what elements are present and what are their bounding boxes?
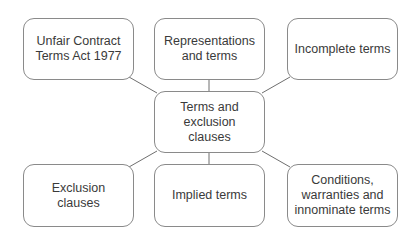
- node-exclusion-clauses: Exclusion clauses: [23, 164, 134, 227]
- node-ucta: Unfair Contract Terms Act 1977: [23, 18, 134, 80]
- node-representations: Representations and terms: [154, 18, 265, 80]
- edge-ucta: [129, 77, 157, 93]
- node-implied-terms: Implied terms: [154, 164, 265, 227]
- node-conditions: Conditions, warranties and innominate te…: [287, 164, 398, 227]
- node-center: Terms and exclusion clauses: [154, 91, 265, 153]
- node-incomplete-terms: Incomplete terms: [287, 18, 398, 80]
- edge-conditions: [262, 151, 290, 167]
- edge-exclusion: [129, 151, 157, 167]
- edge-incomplete: [262, 77, 290, 93]
